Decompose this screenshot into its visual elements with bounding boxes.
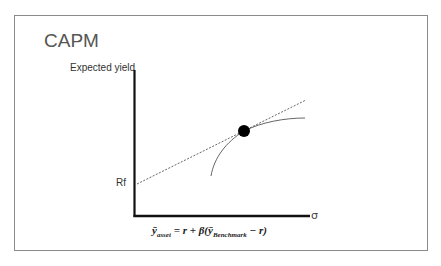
formula-lhs-sub: asset (157, 231, 171, 239)
formula-eq: = r + β( (171, 224, 208, 236)
formula-tail: − r) (247, 224, 267, 236)
efficient-frontier-curve (211, 118, 305, 176)
capital-market-line (137, 100, 306, 184)
tangency-point (238, 125, 250, 137)
capm-formula: ȳasset = r + β(ȳBenchmark − r) (152, 224, 267, 239)
formula-mid-sub: Benchmark (213, 231, 247, 239)
